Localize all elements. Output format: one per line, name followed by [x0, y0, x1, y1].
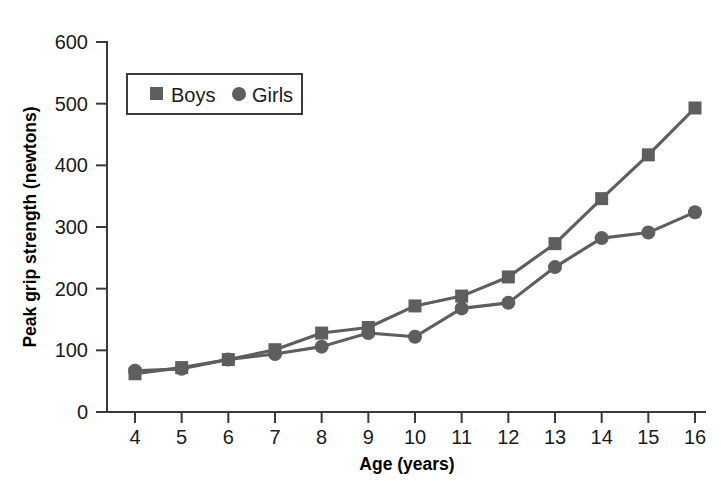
- y-axis-ticks: [96, 42, 107, 412]
- data-point-marker: [642, 148, 655, 161]
- series-girls: [128, 205, 702, 377]
- x-tick-label: 5: [176, 426, 187, 448]
- data-point-marker: [501, 296, 515, 310]
- series-group: [128, 101, 702, 380]
- x-tick-label: 16: [684, 426, 706, 448]
- legend-marker-girls-icon: [232, 87, 246, 101]
- y-tick-label: 100: [55, 339, 88, 361]
- grip-strength-line-chart: 0100200300400500600 45678910111213141516…: [0, 0, 721, 481]
- data-point-marker: [128, 364, 142, 378]
- x-tick-label: 12: [497, 426, 519, 448]
- chart-legend: Boys Girls: [127, 74, 302, 114]
- x-tick-label: 4: [129, 426, 140, 448]
- y-axis-tick-labels: 0100200300400500600: [55, 31, 88, 423]
- legend-label-girls: Girls: [252, 84, 293, 106]
- legend-marker-boys-icon: [150, 87, 163, 100]
- data-point-marker: [409, 299, 422, 312]
- data-point-marker: [549, 237, 562, 250]
- x-axis-ticks: [135, 412, 695, 423]
- data-point-marker: [175, 362, 189, 376]
- x-tick-label: 15: [637, 426, 659, 448]
- x-tick-label: 9: [363, 426, 374, 448]
- legend-label-boys: Boys: [171, 84, 215, 106]
- y-axis-title: Peak grip strength (newtons): [20, 106, 40, 347]
- x-tick-label: 8: [316, 426, 327, 448]
- data-point-marker: [315, 340, 329, 354]
- chart-container: 0100200300400500600 45678910111213141516…: [0, 0, 721, 481]
- data-point-marker: [595, 231, 609, 245]
- y-tick-label: 500: [55, 93, 88, 115]
- y-tick-label: 400: [55, 154, 88, 176]
- x-axis-title: Age (years): [359, 454, 454, 474]
- x-axis-tick-labels: 45678910111213141516: [129, 426, 706, 448]
- y-tick-label: 200: [55, 278, 88, 300]
- data-point-marker: [408, 330, 422, 344]
- x-tick-label: 10: [404, 426, 426, 448]
- data-point-marker: [689, 101, 702, 114]
- x-tick-label: 13: [544, 426, 566, 448]
- data-point-marker: [455, 290, 468, 303]
- x-tick-label: 6: [223, 426, 234, 448]
- data-point-marker: [315, 327, 328, 340]
- y-tick-label: 0: [77, 401, 88, 423]
- data-point-marker: [641, 226, 655, 240]
- x-tick-label: 7: [269, 426, 280, 448]
- data-point-marker: [595, 192, 608, 205]
- x-tick-label: 14: [591, 426, 613, 448]
- data-point-marker: [268, 347, 282, 361]
- y-tick-label: 600: [55, 31, 88, 53]
- data-point-marker: [361, 326, 375, 340]
- x-tick-label: 11: [451, 426, 472, 448]
- data-point-marker: [502, 270, 515, 283]
- data-point-marker: [455, 301, 469, 315]
- data-point-marker: [548, 260, 562, 274]
- data-point-marker: [688, 205, 702, 219]
- data-point-marker: [221, 353, 235, 367]
- y-tick-label: 300: [55, 216, 88, 238]
- series-line-girls: [135, 212, 695, 370]
